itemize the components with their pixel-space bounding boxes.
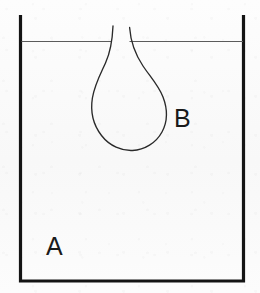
diagram-canvas <box>0 0 260 293</box>
phase-label-a: A <box>46 234 63 259</box>
figure-container: A B <box>0 0 260 293</box>
pendant-drop-outline <box>92 26 166 151</box>
phase-label-b: B <box>174 106 191 131</box>
